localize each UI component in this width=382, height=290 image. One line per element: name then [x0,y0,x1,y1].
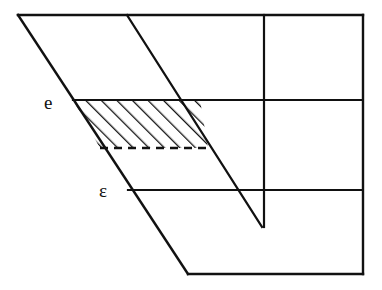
figure-diagram [0,0,382,290]
label-e: e [44,93,52,112]
hatched-band-fill [73,100,208,148]
hatched-band [73,100,208,148]
label-epsilon: ε [99,181,107,200]
figure-root: e ε [0,0,382,290]
